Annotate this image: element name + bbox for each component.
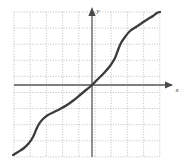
graph-canvas: x y [0, 0, 185, 167]
coordinate-graph: x y [0, 0, 185, 167]
